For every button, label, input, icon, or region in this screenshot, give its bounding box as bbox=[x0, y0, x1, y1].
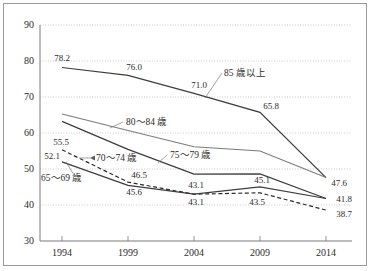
y-axis-ticks: 90 80 70 60 50 40 30 bbox=[24, 19, 34, 246]
value-label-65-8: 65.8 bbox=[263, 101, 279, 111]
x-tick-2014: 2014 bbox=[316, 247, 336, 258]
value-label-71-0: 71.0 bbox=[191, 80, 207, 90]
x-tick-1994: 1994 bbox=[52, 247, 72, 258]
series-line-80-84 bbox=[62, 114, 326, 178]
gridlines bbox=[40, 25, 352, 205]
value-label-55-5: 55.5 bbox=[53, 137, 69, 147]
x-axis-ticks: 1994 1999 2004 2009 2014 bbox=[52, 247, 336, 258]
line-chart: 90 80 70 60 50 40 30 1994 1999 2004 2009… bbox=[0, 0, 372, 271]
value-label-52-1: 52.1 bbox=[44, 151, 60, 161]
value-label-45-1: 45.1 bbox=[254, 175, 270, 185]
value-label-43-1-upper: 43.1 bbox=[188, 180, 204, 190]
series-label-70-74: 70〜74 歳 bbox=[96, 152, 137, 163]
value-label-41-8: 41.8 bbox=[336, 194, 352, 204]
y-tick-80: 80 bbox=[24, 55, 34, 66]
y-tick-90: 90 bbox=[24, 19, 34, 30]
value-label-43-1-lower: 43.1 bbox=[188, 197, 204, 207]
value-label-43-5: 43.5 bbox=[249, 197, 265, 207]
series-annotations: 85 歳以上 80〜84 歳 75〜79 歳 70〜74 歳 65〜69 歳 bbox=[41, 67, 266, 183]
series-label-85plus: 85 歳以上 bbox=[224, 67, 266, 78]
value-label-46-5: 46.5 bbox=[131, 170, 147, 180]
value-label-47-6: 47.6 bbox=[331, 178, 347, 188]
y-tick-30: 30 bbox=[24, 235, 34, 246]
y-tick-60: 60 bbox=[24, 127, 34, 138]
value-label-76-0: 76.0 bbox=[126, 62, 142, 72]
series-label-80-84: 80〜84 歳 bbox=[126, 116, 167, 127]
value-label-78-2: 78.2 bbox=[54, 53, 70, 63]
value-label-38-7: 38.7 bbox=[336, 209, 352, 219]
value-label-45-6: 45.6 bbox=[126, 187, 142, 197]
y-tick-40: 40 bbox=[24, 199, 34, 210]
x-tick-2004: 2004 bbox=[184, 247, 204, 258]
series-label-65-69: 65〜69 歳 bbox=[41, 172, 82, 183]
x-tick-1999: 1999 bbox=[118, 247, 138, 258]
series-label-75-79: 75〜79 歳 bbox=[170, 149, 211, 160]
x-tick-2009: 2009 bbox=[250, 247, 270, 258]
y-tick-70: 70 bbox=[24, 91, 34, 102]
y-tick-50: 50 bbox=[24, 163, 34, 174]
